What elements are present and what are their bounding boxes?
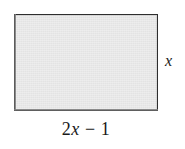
width-constant: 1: [101, 119, 111, 139]
rectangle-shape: [14, 14, 158, 111]
rectangle-left-edge: [14, 14, 16, 111]
rectangle-figure: x 2x − 1: [0, 0, 185, 149]
width-variable: x: [71, 119, 80, 139]
height-label: x: [165, 53, 172, 69]
width-coefficient: 2: [62, 119, 72, 139]
width-operator: −: [84, 119, 97, 139]
width-label: 2x − 1: [14, 120, 158, 138]
rectangle-bottom-edge: [14, 109, 158, 111]
